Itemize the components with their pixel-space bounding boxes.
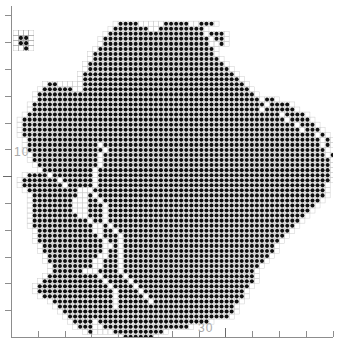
grid-dot (270, 188, 274, 192)
grid-dot (209, 279, 213, 283)
grid-dot (255, 198, 259, 202)
grid-dot (235, 284, 239, 288)
grid-dot (275, 224, 279, 228)
grid-dot (119, 87, 123, 91)
grid-dot (255, 193, 259, 197)
grid-dot (159, 219, 163, 223)
grid-dot (189, 27, 193, 31)
grid-dot (164, 183, 168, 187)
grid-dot (108, 138, 112, 142)
y-axis-tick (5, 96, 12, 97)
grid-dot (159, 57, 163, 61)
grid-dot (225, 254, 229, 258)
grid-dot (300, 214, 304, 218)
grid-dot (114, 178, 118, 182)
grid-dot (270, 158, 274, 162)
grid-dot (88, 289, 92, 293)
grid-dot (265, 193, 269, 197)
grid-dot (98, 102, 102, 106)
grid-dot (124, 259, 128, 263)
grid-dot (38, 102, 42, 106)
grid-dot (215, 123, 219, 127)
grid-dot (235, 77, 239, 81)
grid-dot (83, 138, 87, 142)
grid-dot (149, 274, 153, 278)
grid-dot (154, 82, 158, 86)
grid-dot (154, 32, 158, 36)
grid-dot (189, 133, 193, 137)
grid-dot (235, 133, 239, 137)
grid-dot (48, 113, 52, 117)
grid-dot (119, 325, 123, 329)
grid-dot (184, 47, 188, 51)
grid-dot (129, 87, 133, 91)
grid-dot (310, 168, 314, 172)
grid-dot (53, 289, 57, 293)
grid-dot (159, 82, 163, 86)
grid-dot (174, 22, 178, 26)
grid-dot (108, 264, 112, 268)
grid-dot (98, 77, 102, 81)
grid-dot (250, 198, 254, 202)
grid-dot (93, 108, 97, 112)
grid-dot (164, 310, 168, 314)
grid-dot (159, 244, 163, 248)
grid-dot (144, 47, 148, 51)
grid-dot (199, 304, 203, 308)
grid-dot (119, 52, 123, 56)
grid-dot (164, 294, 168, 298)
grid-dot (215, 294, 219, 298)
grid-dot (144, 310, 148, 314)
grid-dot (164, 284, 168, 288)
grid-dot (48, 87, 52, 91)
grid-dot (204, 274, 208, 278)
grid-dot (144, 32, 148, 36)
grid-dot (108, 274, 112, 278)
grid-dot (154, 310, 158, 314)
grid-dot (154, 304, 158, 308)
grid-dot (139, 52, 143, 56)
grid-dot (194, 153, 198, 157)
grid-dot (305, 133, 309, 137)
grid-dot (73, 92, 77, 96)
grid-dot (316, 138, 320, 142)
grid-dot (179, 102, 183, 106)
grid-dot (108, 133, 112, 137)
grid-dot (114, 330, 118, 334)
grid-dot (119, 274, 123, 278)
grid-dot (184, 269, 188, 273)
grid-dot (103, 42, 107, 46)
grid-dot (225, 97, 229, 101)
grid-dot (98, 128, 102, 132)
grid-dot (93, 153, 97, 157)
grid-dot (199, 289, 203, 293)
grid-dot (235, 138, 239, 142)
grid-dot (164, 229, 168, 233)
grid-dot (265, 138, 269, 142)
grid-dot (316, 158, 320, 162)
grid-dot (255, 133, 259, 137)
grid-dot (295, 203, 299, 207)
grid-dot (88, 249, 92, 253)
grid-dot (285, 163, 289, 167)
grid-dot (189, 158, 193, 162)
grid-dot (119, 214, 123, 218)
grid-dot (209, 113, 213, 117)
grid-dot (129, 123, 133, 127)
grid-dot (53, 239, 57, 243)
grid-dot (114, 102, 118, 106)
grid-dot (124, 168, 128, 172)
grid-dot (245, 203, 249, 207)
grid-dot (300, 153, 304, 157)
inset-dot (24, 41, 28, 45)
grid-dot (225, 178, 229, 182)
grid-dot (169, 259, 173, 263)
grid-dot (194, 37, 198, 41)
grid-dot (194, 289, 198, 293)
grid-dot (103, 325, 107, 329)
grid-dot (174, 178, 178, 182)
grid-dot (184, 82, 188, 86)
grid-dot (28, 133, 32, 137)
grid-dot (149, 123, 153, 127)
grid-dot (43, 178, 47, 182)
